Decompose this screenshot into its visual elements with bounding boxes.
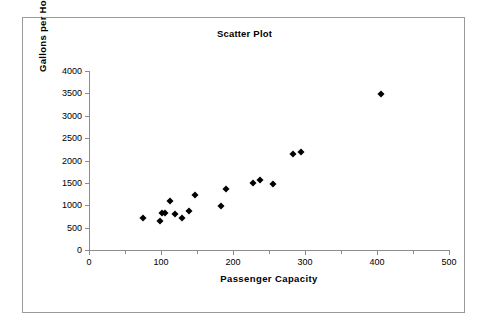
data-point (218, 202, 225, 209)
data-point (269, 181, 276, 188)
y-tick-label: 4000 (62, 67, 82, 76)
y-axis-line (89, 71, 90, 251)
y-tick-label: 3000 (62, 112, 82, 121)
y-tick (85, 205, 89, 206)
x-tick (161, 251, 162, 255)
data-point (290, 151, 297, 158)
x-tick (449, 251, 450, 255)
y-tick (85, 93, 89, 94)
y-tick (85, 71, 89, 72)
data-point (257, 176, 264, 183)
x-tick-label: 400 (369, 258, 384, 267)
data-point (166, 197, 173, 204)
data-point (250, 180, 257, 187)
data-point (377, 91, 384, 98)
x-minor-tick (413, 251, 414, 254)
x-tick (377, 251, 378, 255)
x-minor-tick (197, 251, 198, 254)
x-tick (89, 251, 90, 255)
data-point (191, 191, 198, 198)
data-point (157, 218, 164, 225)
y-tick (85, 228, 89, 229)
chart-page: Scatter Plot Gallons per Hour Passenger … (0, 0, 489, 331)
y-tick (85, 138, 89, 139)
y-tick-label: 3500 (62, 89, 82, 98)
data-point (162, 210, 169, 217)
y-tick-label: 2500 (62, 134, 82, 143)
x-minor-tick (269, 251, 270, 254)
x-tick (305, 251, 306, 255)
y-tick-label: 1000 (62, 201, 82, 210)
x-minor-tick (341, 251, 342, 254)
y-tick (85, 116, 89, 117)
x-tick-label: 100 (153, 258, 168, 267)
x-tick-label: 200 (225, 258, 240, 267)
x-tick (233, 251, 234, 255)
y-tick (85, 183, 89, 184)
y-tick-label: 2000 (62, 157, 82, 166)
x-minor-tick (125, 251, 126, 254)
chart-frame: Scatter Plot Gallons per Hour Passenger … (22, 17, 465, 313)
x-axis-title: Passenger Capacity (89, 273, 449, 284)
data-point (222, 186, 229, 193)
plot-area: 05001000150020002500300035004000 0100200… (89, 71, 449, 250)
x-tick-label: 300 (297, 258, 312, 267)
y-tick-label: 1500 (62, 179, 82, 188)
data-point (298, 149, 305, 156)
chart-title: Scatter Plot (23, 28, 466, 39)
data-point (178, 214, 185, 221)
data-point (139, 214, 146, 221)
x-tick-label: 500 (441, 258, 456, 267)
y-tick-label: 500 (67, 224, 82, 233)
x-tick-label: 0 (86, 258, 91, 267)
y-tick (85, 161, 89, 162)
y-tick-label: 0 (77, 246, 82, 255)
y-axis-title: Gallons per Hour (37, 0, 48, 96)
data-point (186, 208, 193, 215)
